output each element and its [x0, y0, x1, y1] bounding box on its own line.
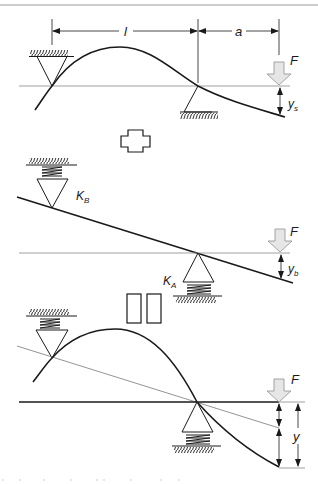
panel-combined: F y — [17, 309, 305, 468]
load-label-f: F — [290, 53, 299, 68]
rigid-beam-tilted — [17, 197, 293, 283]
spring-support-a — [172, 402, 221, 453]
spring-label-ka: KA — [163, 274, 176, 290]
caption-remnant — [2, 479, 179, 480]
spring-support-b — [26, 158, 77, 208]
dimension-label-a: a — [235, 24, 242, 39]
spring-support-b — [26, 309, 77, 358]
deflection-label-yb-sub: b — [294, 269, 299, 278]
spring-label-kb-sub: B — [84, 196, 90, 205]
load-arrow-f — [268, 229, 292, 252]
load-arrow-f — [267, 62, 291, 85]
equals-operator-icon — [127, 294, 161, 323]
load-label-f: F — [291, 372, 300, 387]
deflected-beam-curve — [35, 47, 285, 117]
deflection-label-ys-sub: s — [294, 104, 298, 113]
spring-label-ka-sub: A — [170, 281, 176, 290]
panel-rigid-supports: l a F ys — [19, 19, 299, 119]
panel-spring-supports: KB KA F yb — [17, 158, 299, 303]
beam-superposition-diagram: l a F ys — [0, 0, 318, 484]
deflection-label-yb: yb — [287, 262, 299, 278]
combined-deflection-curve — [33, 329, 279, 467]
spring-label-kb: KB — [76, 189, 90, 205]
deflection-label-ys: ys — [287, 97, 298, 113]
spring-support-a — [173, 253, 222, 303]
pin-support-right — [180, 86, 218, 119]
load-label-f: F — [290, 224, 299, 239]
plus-operator-icon — [121, 130, 150, 152]
rigid-body-reference-line — [17, 346, 279, 428]
load-arrow-f — [267, 379, 291, 402]
